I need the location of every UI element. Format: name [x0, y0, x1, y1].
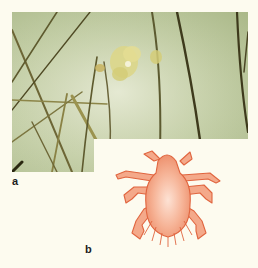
- panel-b-inset: [94, 139, 258, 268]
- panel-label-b: b: [85, 243, 92, 255]
- figure: a b: [0, 0, 258, 268]
- pubic-louse-illustration: [94, 139, 258, 268]
- panel-label-a: a: [12, 175, 18, 187]
